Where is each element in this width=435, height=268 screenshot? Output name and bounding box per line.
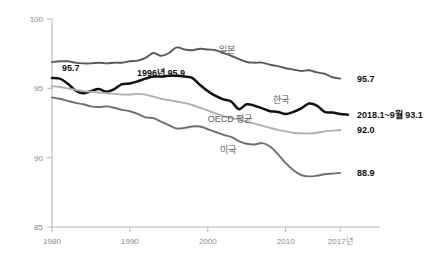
y-tick-label: 90 <box>34 154 43 163</box>
line-chart: 10095908519801990200020102017년 일본한국OECD … <box>0 0 435 268</box>
x-tick-label: 1980 <box>43 237 61 246</box>
annotation-korea-start-value: 95.7 <box>62 63 80 73</box>
chart-plot-area: 10095908519801990200020102017년 일본한국OECD … <box>0 0 435 268</box>
annotation-usa-end-value: 88.9 <box>357 168 375 178</box>
x-tick-label: 2010 <box>277 237 295 246</box>
series-label-japan: 일본 <box>219 45 235 55</box>
x-tick-label: 2017년 <box>328 236 353 246</box>
series-line-korea <box>52 76 348 115</box>
x-tick-label: 1990 <box>121 237 139 246</box>
y-tick-label: 95 <box>34 84 43 93</box>
series-label-usa: 미국 <box>220 145 236 155</box>
y-tick-label: 85 <box>34 223 43 232</box>
annotation-korea-peak-value: 1996년 95.9 <box>137 67 185 78</box>
annotation-japan-end-value: 95.7 <box>357 74 375 84</box>
series-group <box>52 47 348 176</box>
series-label-korea: 한국 <box>273 95 289 105</box>
x-tick-label: 2000 <box>199 237 217 246</box>
series-line-japan <box>52 47 340 78</box>
series-label-oecd_average: OECD 평균 <box>208 114 253 124</box>
annotation-oecd-end-value: 92.0 <box>357 125 375 135</box>
y-tick-label: 100 <box>30 15 44 24</box>
annotation-korea-end-value: 2018.1~9월 93.1 <box>357 109 423 120</box>
